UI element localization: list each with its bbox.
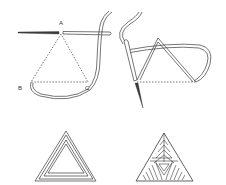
finished-outline-triangle [35,131,96,181]
thread-up [122,12,142,42]
step-1-illustration [18,11,112,99]
label-c: C [85,85,90,91]
stitch-diagram: A B C [0,0,226,185]
thread-loop-inner [33,11,109,97]
finished-filled-triangle [136,133,193,181]
label-a: A [59,20,63,26]
needle-icon [18,32,59,34]
thread-loop-right [127,44,211,82]
thread-up-inner [119,12,139,44]
label-b: B [18,85,22,91]
dashed-triangle-guide [31,34,88,82]
needle-icon-diagonal [124,40,137,82]
needle-tip [135,83,143,108]
needle-shaft [63,32,111,36]
step-2-illustration [119,12,210,108]
